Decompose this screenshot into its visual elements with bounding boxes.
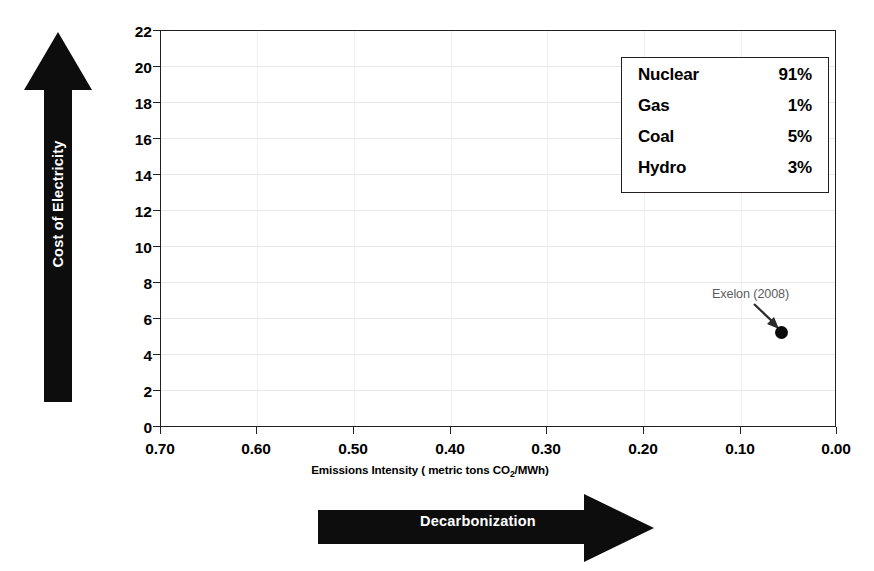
gridline-horizontal [161, 282, 835, 283]
y-tick-mark [153, 390, 160, 391]
y-tick-label: 22 [118, 23, 152, 41]
legend-row: Hydro 3% [638, 158, 812, 189]
y-tick-label: 2 [118, 383, 152, 401]
y-tick-label: 6 [118, 311, 152, 329]
legend-value: 3% [788, 158, 812, 178]
legend-label: Coal [638, 127, 674, 147]
x-tick-label: 0.30 [511, 440, 581, 458]
y-tick-label: 16 [118, 131, 152, 149]
x-axis-title-subscript: 2 [510, 469, 515, 479]
x-tick-label: 0.10 [705, 440, 775, 458]
x-tick-mark [353, 427, 354, 434]
data-point-label: Exelon (2008) [712, 287, 789, 301]
y-tick-mark [153, 30, 160, 31]
legend-value: 91% [779, 65, 812, 85]
y-tick-mark [153, 282, 160, 283]
x-tick-mark [546, 427, 547, 434]
y-tick-label: 12 [118, 203, 152, 221]
decarbonization-label: Decarbonization [378, 513, 578, 529]
y-tick-label: 14 [118, 167, 152, 185]
x-axis-title: Emissions Intensity ( metric tons CO2/MW… [160, 463, 700, 476]
gridline-horizontal [161, 318, 835, 319]
x-tick-mark [450, 427, 451, 434]
y-tick-label: 18 [118, 95, 152, 113]
gridline-horizontal [161, 246, 835, 247]
x-tick-mark [836, 427, 837, 434]
y-tick-mark [153, 102, 160, 103]
gridline-vertical [547, 31, 548, 426]
gridline-horizontal [161, 390, 835, 391]
legend-label: Hydro [638, 158, 686, 178]
y-tick-label: 10 [118, 239, 152, 257]
gridline-vertical [354, 31, 355, 426]
legend-label: Nuclear [638, 65, 699, 85]
y-tick-label: 8 [118, 275, 152, 293]
y-tick-mark [153, 246, 160, 247]
x-tick-mark [160, 427, 161, 434]
x-tick-mark [256, 427, 257, 434]
legend-row: Nuclear 91% [638, 65, 812, 96]
y-tick-mark [153, 426, 160, 427]
gridline-vertical [451, 31, 452, 426]
y-axis-title-wrapper: Wholesale Electricity Cost (2007 cents/k… [94, 80, 110, 380]
x-tick-label: 0.40 [415, 440, 485, 458]
y-tick-mark [153, 210, 160, 211]
y-tick-mark [153, 174, 160, 175]
data-point-exelon[interactable] [775, 326, 788, 339]
legend-value: 1% [788, 96, 812, 116]
fuel-mix-legend: Nuclear 91% Gas 1% Coal 5% Hydro 3% [621, 57, 829, 193]
x-tick-label: 0.00 [801, 440, 871, 458]
legend-row: Gas 1% [638, 96, 812, 127]
y-tick-label: 20 [118, 59, 152, 77]
legend-row: Coal 5% [638, 127, 812, 158]
x-tick-label: 0.70 [125, 440, 195, 458]
decarbonization-arrow: Decarbonization [316, 492, 656, 564]
x-tick-label: 0.50 [318, 440, 388, 458]
chart-figure: Cost of Electricity Wholesale Electricit… [0, 0, 874, 571]
gridline-horizontal [161, 210, 835, 211]
gridline-horizontal [161, 354, 835, 355]
y-tick-mark [153, 354, 160, 355]
y-tick-label: 0 [118, 419, 152, 437]
x-axis-title-prefix: Emissions Intensity ( metric tons CO [311, 463, 510, 476]
x-tick-mark [643, 427, 644, 434]
y-tick-mark [153, 138, 160, 139]
gridline-vertical [257, 31, 258, 426]
x-tick-label: 0.60 [221, 440, 291, 458]
legend-label: Gas [638, 96, 670, 116]
cost-of-electricity-label: Cost of Electricity [50, 89, 66, 319]
y-tick-label: 4 [118, 347, 152, 365]
cost-of-electricity-arrow: Cost of Electricity [22, 28, 94, 406]
x-axis-title-suffix: /MWh) [515, 463, 549, 476]
y-tick-mark [153, 318, 160, 319]
y-tick-mark [153, 66, 160, 67]
legend-value: 5% [788, 127, 812, 147]
x-tick-mark [740, 427, 741, 434]
x-tick-label: 0.20 [608, 440, 678, 458]
